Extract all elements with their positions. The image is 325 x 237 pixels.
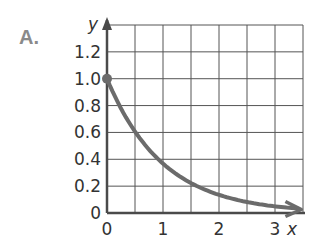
grid-lines: [107, 25, 303, 213]
y-tick-label: 0.6: [74, 122, 101, 142]
x-axis-label: x: [286, 219, 298, 237]
x-tick-label: 3: [270, 219, 281, 237]
y-tick-label: 0: [90, 203, 101, 223]
x-tick-label: 0: [102, 219, 113, 237]
start-point-marker: [102, 74, 112, 84]
y-axis-label: y: [87, 14, 99, 34]
x-tick-label: 2: [214, 219, 225, 237]
y-tick-label: 0.4: [74, 149, 101, 169]
y-tick-label: 0.2: [74, 176, 101, 196]
exponential-decay-chart: 00.20.40.60.81.01.20123yx: [0, 0, 325, 237]
y-tick-label: 1.0: [74, 69, 101, 89]
y-tick-label: 1.2: [74, 42, 101, 62]
x-tick-label: 1: [158, 219, 169, 237]
curve-line: [107, 79, 297, 209]
data-curve: [102, 74, 301, 217]
y-axis-arrow-icon: [102, 17, 112, 30]
y-tick-label: 0.8: [74, 96, 101, 116]
